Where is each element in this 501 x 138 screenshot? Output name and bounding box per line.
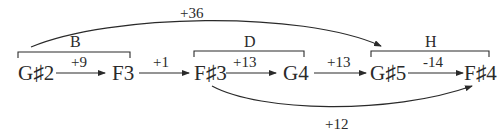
- edge-label-n3-n4: +13: [233, 55, 256, 70]
- edge-label-n4-n5: +13: [327, 55, 350, 70]
- arc-label-n3-n6: +12: [325, 117, 348, 132]
- arc-n3-n6: [212, 86, 472, 107]
- note-fsharp4: F♯4: [464, 63, 497, 84]
- note-fsharp3: F♯3: [194, 63, 227, 84]
- group-label-D: D: [244, 34, 256, 50]
- note-gsharp5: G♯5: [370, 63, 406, 84]
- group-label-H: H: [425, 34, 437, 50]
- note-f3: F3: [112, 63, 134, 84]
- note-gsharp2: G♯2: [18, 63, 54, 84]
- edge-label-n1-n2: +9: [71, 55, 87, 70]
- arc-label-B-H: +36: [180, 6, 203, 21]
- group-label-B: B: [70, 34, 81, 50]
- note-g4: G4: [283, 63, 309, 84]
- edge-label-n5-n6: -14: [423, 55, 443, 70]
- arc-B-H: [31, 21, 381, 47]
- edge-label-n2-n3: +1: [153, 55, 169, 70]
